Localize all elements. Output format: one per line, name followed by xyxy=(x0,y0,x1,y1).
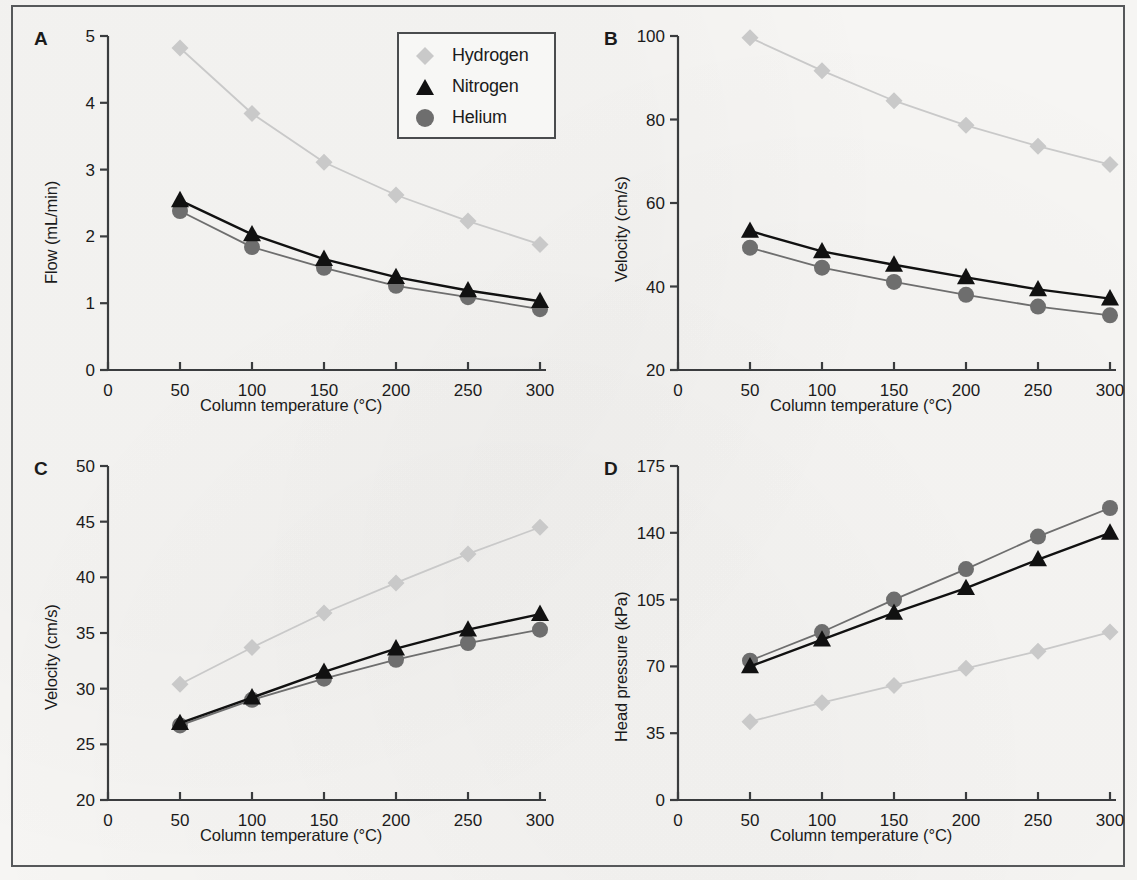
svg-text:60: 60 xyxy=(646,194,665,213)
svg-text:2: 2 xyxy=(86,227,95,246)
svg-text:0: 0 xyxy=(103,811,112,830)
svg-text:250: 250 xyxy=(454,381,482,400)
svg-text:0: 0 xyxy=(673,811,682,830)
legend-label-helium: Helium xyxy=(452,107,507,128)
svg-text:50: 50 xyxy=(741,811,760,830)
legend: Hydrogen Nitrogen Helium xyxy=(397,32,556,139)
svg-text:40: 40 xyxy=(646,278,665,297)
svg-text:300: 300 xyxy=(1096,811,1124,830)
svg-text:200: 200 xyxy=(382,381,410,400)
panel-b-plot: 20406080100050100150200250300 xyxy=(590,14,1135,434)
svg-text:100: 100 xyxy=(637,27,665,46)
svg-text:5: 5 xyxy=(86,27,95,46)
figure-root: A Flow (mL/min) Column temperature (°C) … xyxy=(0,0,1137,880)
svg-text:70: 70 xyxy=(646,657,665,676)
svg-text:4: 4 xyxy=(86,94,95,113)
svg-text:0: 0 xyxy=(673,381,682,400)
diamond-marker-icon xyxy=(410,45,440,67)
svg-text:3: 3 xyxy=(86,161,95,180)
triangle-marker-icon xyxy=(410,76,440,98)
svg-text:105: 105 xyxy=(637,591,665,610)
svg-text:30: 30 xyxy=(76,680,95,699)
panel-c-plot: 20253035404550050100150200250300 xyxy=(20,442,565,867)
svg-text:20: 20 xyxy=(646,361,665,380)
svg-text:175: 175 xyxy=(637,457,665,476)
svg-text:45: 45 xyxy=(76,513,95,532)
svg-text:200: 200 xyxy=(382,811,410,830)
svg-text:250: 250 xyxy=(1024,811,1052,830)
svg-text:150: 150 xyxy=(310,811,338,830)
svg-text:100: 100 xyxy=(238,811,266,830)
svg-text:100: 100 xyxy=(808,381,836,400)
legend-label-hydrogen: Hydrogen xyxy=(452,45,528,66)
legend-item-helium: Helium xyxy=(399,102,554,133)
svg-text:80: 80 xyxy=(646,111,665,130)
svg-text:100: 100 xyxy=(808,811,836,830)
svg-text:200: 200 xyxy=(952,811,980,830)
legend-item-hydrogen: Hydrogen xyxy=(399,40,554,71)
svg-text:300: 300 xyxy=(526,381,554,400)
svg-text:0: 0 xyxy=(86,361,95,380)
svg-text:0: 0 xyxy=(656,791,665,810)
svg-text:300: 300 xyxy=(1096,381,1124,400)
svg-text:150: 150 xyxy=(880,381,908,400)
svg-text:1: 1 xyxy=(86,294,95,313)
svg-text:140: 140 xyxy=(637,524,665,543)
legend-label-nitrogen: Nitrogen xyxy=(452,76,518,97)
svg-text:200: 200 xyxy=(952,381,980,400)
panel-b: B Velocity (cm/s) Column temperature (°C… xyxy=(590,14,1135,434)
panel-d: D Head pressure (kPa) Column temperature… xyxy=(590,442,1135,867)
svg-text:150: 150 xyxy=(310,381,338,400)
legend-item-nitrogen: Nitrogen xyxy=(399,71,554,102)
svg-text:25: 25 xyxy=(76,735,95,754)
svg-text:50: 50 xyxy=(76,457,95,476)
svg-text:50: 50 xyxy=(171,381,190,400)
svg-text:250: 250 xyxy=(454,811,482,830)
panel-d-plot: 03570105140175050100150200250300 xyxy=(590,442,1135,867)
svg-text:40: 40 xyxy=(76,568,95,587)
svg-text:20: 20 xyxy=(76,791,95,810)
svg-text:0: 0 xyxy=(103,381,112,400)
svg-text:50: 50 xyxy=(741,381,760,400)
svg-text:35: 35 xyxy=(646,724,665,743)
panel-a: A Flow (mL/min) Column temperature (°C) … xyxy=(20,14,565,434)
svg-text:35: 35 xyxy=(76,624,95,643)
circle-marker-icon xyxy=(410,107,440,129)
svg-text:50: 50 xyxy=(171,811,190,830)
svg-text:100: 100 xyxy=(238,381,266,400)
svg-text:150: 150 xyxy=(880,811,908,830)
svg-text:300: 300 xyxy=(526,811,554,830)
panel-c: C Velocity (cm/s) Column temperature (°C… xyxy=(20,442,565,867)
svg-text:250: 250 xyxy=(1024,381,1052,400)
